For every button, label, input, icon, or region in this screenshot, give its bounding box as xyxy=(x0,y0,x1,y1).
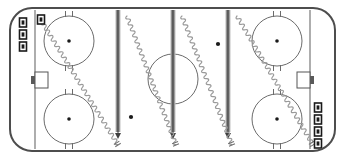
faceoff-circle-top-right-dot xyxy=(275,39,279,43)
faceoff-circle-bottom-right-dot xyxy=(275,117,279,121)
player-queue-left-marker-core xyxy=(22,32,25,36)
player-queue-left-marker-core xyxy=(22,20,25,24)
player-queue-right-marker-core xyxy=(317,117,320,121)
blue-line-right xyxy=(225,10,231,139)
neutral-dot-bottom-left xyxy=(129,115,133,119)
blue-line-left xyxy=(115,10,121,139)
player-queue-right-marker-core xyxy=(317,105,320,109)
player-queue-left xyxy=(20,18,27,51)
goal-net-right-frame xyxy=(297,72,310,88)
center-line xyxy=(170,10,176,139)
goal-net-left-net xyxy=(31,76,35,84)
player-queue-right-marker-core xyxy=(317,129,320,133)
goal-net-left-frame xyxy=(35,72,48,88)
neutral-dot-top-right xyxy=(216,42,220,46)
player-queue-right-marker-core xyxy=(317,141,320,145)
rink-canvas xyxy=(0,0,345,159)
goal-net-right-net xyxy=(310,76,314,84)
faceoff-circle-bottom-left-dot xyxy=(67,117,71,121)
faceoff-circle-top-left-dot xyxy=(67,39,71,43)
hockey-rink-diagram: Ice Hockey Rink Drill Diagram skating wi… xyxy=(0,0,345,159)
player-queue-left-marker-core xyxy=(22,44,25,48)
player-start-marker-top-left xyxy=(38,15,45,24)
player-start-marker-top-left-marker-core xyxy=(40,17,43,21)
